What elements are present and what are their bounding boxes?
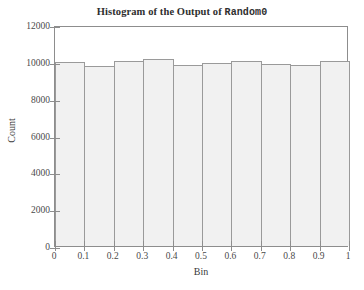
chart-title-plain: Histogram of the Output of bbox=[97, 6, 225, 17]
histogram-bar bbox=[290, 65, 320, 246]
x-tick-label: 0.9 bbox=[313, 251, 325, 261]
y-axis-tick-inner bbox=[55, 174, 60, 175]
x-tick-label: 0.7 bbox=[254, 251, 266, 261]
x-axis-tick-inner bbox=[84, 241, 85, 246]
x-tick-label: 0.6 bbox=[224, 251, 236, 261]
y-tick-label: 2000 bbox=[31, 205, 50, 215]
x-tick-label: 0.5 bbox=[195, 251, 207, 261]
x-axis-tick-inner bbox=[202, 241, 203, 246]
x-axis-tick-inner bbox=[55, 241, 56, 246]
y-tick-label: 8000 bbox=[31, 95, 50, 105]
x-axis-tick-inner bbox=[173, 241, 174, 246]
bars-container bbox=[55, 27, 347, 246]
x-axis-tick-inner bbox=[290, 241, 291, 246]
y-axis-tick-inner bbox=[55, 211, 60, 212]
x-tick-label: 0.1 bbox=[77, 251, 89, 261]
x-axis-title: Bin bbox=[54, 266, 348, 277]
histogram-bar bbox=[261, 64, 291, 246]
x-tick-label: 0 bbox=[52, 251, 57, 261]
plot-area bbox=[54, 26, 348, 247]
x-tick-label: 0.8 bbox=[283, 251, 295, 261]
histogram-bar bbox=[114, 61, 144, 246]
chart-title-mono: Random0 bbox=[225, 7, 268, 18]
y-axis-tick-inner bbox=[55, 27, 60, 28]
y-tick-label: 4000 bbox=[31, 168, 50, 178]
x-axis-tick-inner bbox=[143, 241, 144, 246]
x-axis-tick-inner bbox=[231, 241, 232, 246]
x-axis-tick-inner bbox=[349, 241, 350, 246]
x-tick-label: 1 bbox=[346, 251, 351, 261]
y-axis-title: Count bbox=[6, 101, 17, 161]
y-tick-label: 12000 bbox=[26, 21, 50, 31]
histogram-bar bbox=[84, 66, 114, 246]
y-tick-label: 10000 bbox=[26, 58, 50, 68]
histogram-bar bbox=[202, 63, 232, 246]
x-tick-label: 0.3 bbox=[136, 251, 148, 261]
y-axis-tick-inner bbox=[55, 101, 60, 102]
y-tick-label: 6000 bbox=[31, 132, 50, 142]
histogram-bar bbox=[143, 59, 173, 246]
histogram-bar bbox=[231, 61, 261, 246]
x-tick-label: 0.2 bbox=[107, 251, 119, 261]
x-tick-label: 0.4 bbox=[166, 251, 178, 261]
histogram-bar bbox=[173, 65, 203, 246]
x-axis-tick-inner bbox=[261, 241, 262, 246]
x-axis-tick-inner bbox=[320, 241, 321, 246]
y-axis-tick-inner bbox=[55, 138, 60, 139]
histogram-bar bbox=[320, 61, 350, 246]
histogram-bar bbox=[55, 62, 85, 246]
x-tick-labels: 00.10.20.30.40.50.60.70.80.91 bbox=[54, 251, 348, 265]
histogram-figure: Histogram of the Output of Random0 02000… bbox=[0, 0, 364, 290]
y-tick-label: 0 bbox=[45, 242, 50, 252]
chart-title: Histogram of the Output of Random0 bbox=[0, 6, 364, 18]
x-axis-tick-inner bbox=[114, 241, 115, 246]
y-axis-tick-inner bbox=[55, 64, 60, 65]
